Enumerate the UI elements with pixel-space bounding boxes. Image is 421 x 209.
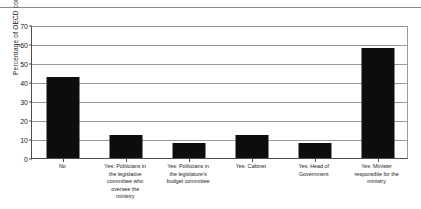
x-axis-label-line: budget committee (151, 178, 226, 186)
bar-slot (95, 26, 158, 158)
bar[interactable] (47, 77, 80, 158)
x-axis-labels: NoYes: Politicians inthe legislativecomm… (31, 163, 408, 209)
x-tick-mark (252, 158, 253, 162)
bar-slot (283, 26, 346, 158)
bar[interactable] (361, 48, 394, 158)
bar[interactable] (298, 143, 331, 158)
bar[interactable] (173, 143, 206, 158)
bar-series (32, 26, 407, 158)
y-tick-label: 60 (20, 42, 28, 49)
x-tick-mark (315, 158, 316, 162)
bar[interactable] (235, 135, 268, 158)
x-axis-label-line: responsible for the (339, 171, 414, 179)
x-tick-mark (63, 158, 64, 162)
x-axis-label: Yes: Ministerresponsible for theministry (339, 163, 414, 186)
x-axis-label-line: Yes: Minister (339, 163, 414, 171)
bar-slot (32, 26, 95, 158)
y-tick-label: 50 (20, 61, 28, 68)
x-axis-label-line: ministry (88, 193, 163, 201)
x-tick-mark (126, 158, 127, 162)
x-tick-mark (189, 158, 190, 162)
chart-title-cropped (0, 0, 421, 6)
bar-slot (158, 26, 221, 158)
top-divider (0, 7, 421, 8)
x-axis-label-line: the legislature's (151, 171, 226, 179)
y-axis-title: Percentage of OECD countries (12, 0, 19, 103)
y-tick-label: 40 (20, 80, 28, 87)
x-axis-label-line: oversee the (88, 186, 163, 194)
x-axis-label-line: ministry (339, 178, 414, 186)
y-tick-label: 20 (20, 118, 28, 125)
bar-slot (221, 26, 284, 158)
bar-slot (346, 26, 409, 158)
y-tick-label: 30 (20, 99, 28, 106)
x-tick-mark (378, 158, 379, 162)
bar[interactable] (110, 135, 143, 158)
chart-canvas: Percentage of OECD countries 01020304050… (0, 0, 421, 209)
y-tick-mark (29, 159, 32, 160)
y-tick-label: 10 (20, 137, 28, 144)
y-tick-label: 0 (24, 156, 28, 163)
plot-area: 010203040506070 (31, 26, 408, 159)
y-tick-label: 70 (20, 23, 28, 30)
